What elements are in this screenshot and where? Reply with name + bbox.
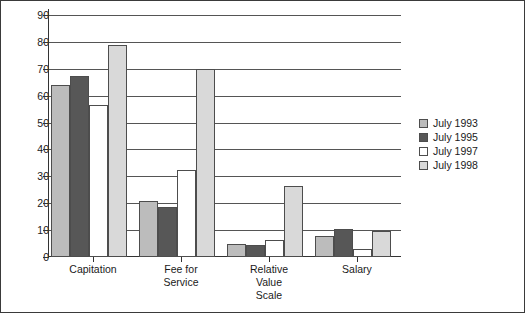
bar[interactable] <box>158 207 177 257</box>
y-axis-line <box>48 9 49 258</box>
y-tick-mark-90 <box>43 15 49 16</box>
bar-chart-figure: 0102030405060708090 July 1993July 1995Ju… <box>0 0 525 313</box>
legend-item[interactable]: July 1995 <box>419 130 519 144</box>
legend-item-label: July 1998 <box>433 159 478 171</box>
legend-swatch-icon <box>419 161 428 170</box>
plot-area <box>49 15 401 257</box>
legend-item-label: July 1993 <box>433 117 478 129</box>
chart-legend: July 1993July 1995July 1997July 1998 <box>419 116 519 172</box>
y-tick-mark-70 <box>43 69 49 70</box>
bar[interactable] <box>227 244 246 257</box>
legend-item-label: July 1997 <box>433 145 478 157</box>
y-tick-mark-10 <box>43 230 49 231</box>
y-tick-mark-0 <box>43 257 49 258</box>
bar[interactable] <box>196 69 215 257</box>
bar[interactable] <box>315 236 334 258</box>
bar[interactable] <box>177 170 196 257</box>
bar-group <box>139 15 215 257</box>
bar[interactable] <box>353 249 372 257</box>
y-tick-mark-50 <box>43 123 49 124</box>
legend-item[interactable]: July 1998 <box>419 158 519 172</box>
legend-item[interactable]: July 1993 <box>419 116 519 130</box>
bar[interactable] <box>89 105 108 257</box>
bar-group <box>315 15 391 257</box>
bar[interactable] <box>334 229 353 257</box>
legend-item[interactable]: July 1997 <box>419 144 519 158</box>
x-tick-mark <box>269 257 270 262</box>
y-tick-mark-30 <box>43 176 49 177</box>
legend-swatch-icon <box>419 147 428 156</box>
bar-group <box>227 15 303 257</box>
legend-swatch-icon <box>419 133 428 142</box>
legend-item-label: July 1995 <box>433 131 478 143</box>
y-tick-mark-20 <box>43 203 49 204</box>
y-tick-mark-60 <box>43 96 49 97</box>
bar[interactable] <box>246 245 265 257</box>
bar[interactable] <box>284 186 303 257</box>
bar[interactable] <box>108 45 127 257</box>
y-tick-mark-80 <box>43 42 49 43</box>
bar[interactable] <box>51 85 70 257</box>
x-tick-mark <box>181 257 182 262</box>
bar[interactable] <box>372 231 391 257</box>
x-tick-mark <box>93 257 94 262</box>
bar-group <box>51 15 127 257</box>
y-axis: 0102030405060708090 <box>9 15 49 257</box>
y-tick-mark-40 <box>43 149 49 150</box>
bar[interactable] <box>139 201 158 257</box>
bar[interactable] <box>70 76 89 258</box>
bar[interactable] <box>265 240 284 257</box>
x-tick-mark <box>357 257 358 262</box>
legend-swatch-icon <box>419 119 428 128</box>
x-axis-category-label: Salary <box>299 263 415 276</box>
